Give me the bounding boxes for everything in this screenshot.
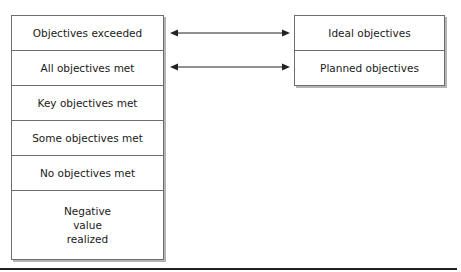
target-label: Planned objectives — [320, 61, 419, 75]
target-label: Ideal objectives — [328, 26, 410, 40]
level-label: All objectives met — [41, 61, 135, 75]
level-some-objectives-met: Some objectives met — [12, 121, 163, 156]
level-label: No objectives met — [40, 166, 135, 180]
level-label: Negative value realized — [52, 204, 123, 246]
target-planned-objectives: Planned objectives — [295, 51, 444, 85]
level-label: Key objectives met — [38, 96, 138, 110]
target-ideal-objectives: Ideal objectives — [295, 16, 444, 51]
level-objectives-exceeded: Objectives exceeded — [12, 16, 163, 51]
level-key-objectives-met: Key objectives met — [12, 86, 163, 121]
double-arrow-icon — [170, 28, 290, 38]
level-no-objectives-met: No objectives met — [12, 156, 163, 191]
bottom-rule-divider — [0, 268, 457, 270]
level-label: Objectives exceeded — [33, 26, 142, 40]
objective-targets-column: Ideal objectives Planned objectives — [294, 15, 445, 86]
level-label: Some objectives met — [32, 131, 143, 145]
level-all-objectives-met: All objectives met — [12, 51, 163, 86]
double-arrow-icon — [170, 62, 290, 72]
level-negative-value-realized: Negative value realized — [12, 191, 163, 259]
outcome-levels-column: Objectives exceeded All objectives met K… — [11, 15, 164, 260]
